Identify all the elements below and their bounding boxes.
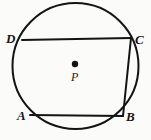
vertex-label-c: C bbox=[135, 33, 144, 46]
center-label-p: P bbox=[71, 71, 78, 83]
vertex-label-b: B bbox=[126, 110, 135, 123]
geometry-figure: D C A B P bbox=[0, 0, 151, 140]
vertex-label-a: A bbox=[17, 109, 26, 122]
vertex-label-d: D bbox=[6, 32, 15, 45]
center-dot-icon bbox=[72, 61, 78, 67]
chord-cb bbox=[123, 38, 131, 116]
chord-dc bbox=[22, 38, 131, 40]
chord-ab bbox=[30, 115, 123, 116]
